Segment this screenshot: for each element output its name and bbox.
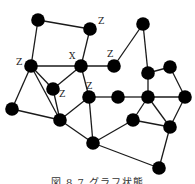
graph-node [141, 90, 155, 104]
graph-node [136, 17, 150, 31]
graph-node [74, 59, 88, 73]
node-label: Z [107, 49, 113, 59]
graph-state-diagram: ZZXZZZ [0, 0, 195, 184]
graph-node [111, 90, 125, 104]
graph-node [178, 90, 192, 104]
graph-node [86, 136, 100, 150]
graph-node [107, 59, 121, 73]
graph-edge [31, 20, 38, 66]
graph-edge [38, 20, 90, 29]
graph-node [53, 113, 67, 127]
graph-edge [89, 97, 93, 143]
node-label: Z [98, 16, 104, 26]
graph-node [126, 113, 140, 127]
graph-node [31, 13, 45, 27]
node-label: Z [59, 89, 65, 99]
node-label: Z [86, 81, 92, 91]
graph-node [46, 82, 60, 96]
node-label: Z [16, 57, 22, 67]
figure-caption: 図 8.7 グラフ状態 [0, 174, 195, 184]
graph-edge [93, 143, 159, 168]
graph-node [163, 120, 177, 134]
node-label: X [69, 51, 76, 61]
graph-node [82, 90, 96, 104]
graph-node [24, 59, 38, 73]
graph-node [5, 102, 19, 116]
node-labels: ZZXZZZ [16, 16, 113, 99]
graph-edge [114, 24, 143, 66]
graph-node [141, 66, 155, 80]
graph-edge [143, 24, 148, 73]
graph-node [152, 161, 166, 175]
graph-node [163, 60, 177, 74]
graph-edge [93, 120, 133, 143]
graph-edge [12, 66, 31, 109]
graph-edge [12, 109, 60, 120]
graph-node [83, 22, 97, 36]
